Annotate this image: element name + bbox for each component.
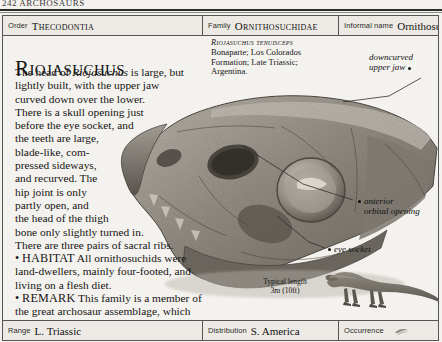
desc-line-14: There are three pairs of sacral ribs.	[15, 239, 211, 252]
remark-bullet-icon: •	[15, 291, 19, 305]
desc-line-3: curved down over the lower.	[15, 93, 211, 106]
occurrence-label: Occurrence	[344, 326, 384, 335]
footer-cell-distribution: Distribution S. America	[203, 321, 339, 340]
annotation-jaw-leader-line	[303, 66, 433, 106]
description-text: The head of Riojasuchus is large, but li…	[15, 66, 211, 320]
remark-label: REMARK	[22, 291, 75, 305]
distribution-label: Distribution	[208, 326, 247, 335]
header-cell-order: Order Thecodontia	[3, 16, 203, 35]
footer-cell-range: Range L. Triassic	[3, 321, 203, 340]
desc-line-1b: is large, but	[128, 66, 184, 78]
page-top-rule-thick	[0, 9, 442, 11]
range-label: Range	[8, 326, 31, 335]
specimen-line-2: Formation; Late Triassic;	[211, 57, 298, 67]
specimen-line-3: Argentina.	[211, 66, 247, 76]
page-folio: 242 ARCHOSAURS	[2, 0, 202, 9]
entry-body: Riojasuchus The head of Riojasuchus is l…	[2, 36, 439, 320]
animal-silhouette	[325, 264, 439, 316]
desc-line-5: before the eye socket, and	[15, 119, 211, 132]
genus-italic: Riojasuchus	[72, 66, 128, 78]
desc-line-13: bone only slightly turned in.	[15, 226, 211, 239]
order-label: Order	[8, 21, 28, 30]
footer-cell-occurrence: Occurrence	[339, 321, 438, 340]
desc-line-8: pressed sideways,	[15, 159, 135, 172]
habitat-label: HABITAT	[22, 251, 75, 265]
scale-caption: Typical length 3m (10ft)	[239, 278, 331, 295]
header-cell-family: Family Ornithosuchidae	[203, 16, 339, 35]
desc-line-10: hip joint is only	[15, 186, 111, 199]
habitat-bullet-icon: •	[15, 251, 19, 265]
desc-line-9: and recurved. The	[15, 172, 135, 185]
desc-line-6: the teeth are large,	[15, 132, 165, 145]
family-label: Family	[208, 21, 231, 30]
header-cell-informal-name: Informal name Ornithosuchid	[339, 16, 438, 35]
desc-line-4: There is a skull opening just	[15, 106, 211, 119]
annotation-orbital-line1: anterior	[364, 196, 394, 206]
annotation-anterior-orbital-opening: anterior orbital opening	[355, 196, 420, 217]
book-page: 242 ARCHOSAURS Order Thecodontia Family …	[0, 0, 442, 342]
taxonomy-header-bar: Order Thecodontia Family Ornithosuchidae…	[2, 15, 439, 36]
specimen-line-1: Bonaparte; Los Colorados	[211, 47, 301, 57]
desc-line-11: partly open, and	[15, 199, 123, 212]
page-top-rule-thin	[0, 12, 442, 13]
order-value: Thecodontia	[32, 20, 94, 32]
habitat-entry: • HABITAT All ornithosuchids were land-d…	[15, 252, 211, 292]
annotation-jaw-line1: downcurved	[369, 52, 413, 62]
scale-caption-value: 3m (10ft)	[239, 287, 331, 296]
annotation-orbital-line2: orbital opening	[355, 206, 420, 216]
informal-name-label: Informal name	[344, 21, 393, 30]
abundance-icon	[394, 322, 410, 340]
annotation-eye-leader-line	[275, 214, 335, 254]
desc-line-1: The head of Riojasuchus is large, but	[15, 66, 211, 79]
desc-line-7: blade-like, com-	[15, 146, 135, 159]
informal-name-value: Ornithosuchid	[397, 20, 438, 32]
metadata-footer-bar: Range L. Triassic Distribution S. Americ…	[2, 320, 439, 341]
annotation-orbital-leader-line	[239, 136, 359, 208]
annotation-eye-line1: eye socket	[334, 244, 371, 254]
desc-line-2: lightly built, with the upper jaw	[15, 79, 211, 92]
range-value: L. Triassic	[35, 325, 81, 337]
desc-line-12: the head of the thigh	[15, 212, 147, 225]
family-value: Ornithosuchidae	[235, 20, 318, 32]
distribution-value: S. America	[251, 325, 300, 337]
remark-entry: • REMARK This family is a member of the …	[15, 292, 211, 320]
desc-line-1a: The head of	[15, 66, 72, 78]
